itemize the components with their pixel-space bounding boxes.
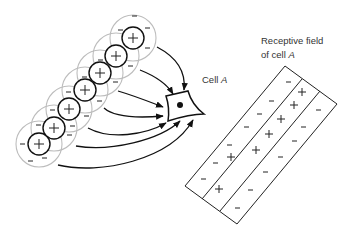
receptive-field-label-line1: Receptive field: [261, 35, 323, 47]
cell-a: [166, 91, 204, 121]
rf-label-text: of cell: [261, 49, 288, 60]
cell-label-text: Cell: [202, 74, 221, 85]
cell-nucleus-icon: [177, 102, 183, 108]
rf-label-italic: A: [288, 49, 294, 60]
receptive-field-label-line2: of cell A: [261, 49, 295, 61]
center-subunits: [28, 27, 144, 155]
cell-a-label: Cell A: [202, 74, 227, 86]
receptive-field: [185, 66, 337, 224]
cell-label-italic: A: [221, 74, 227, 85]
